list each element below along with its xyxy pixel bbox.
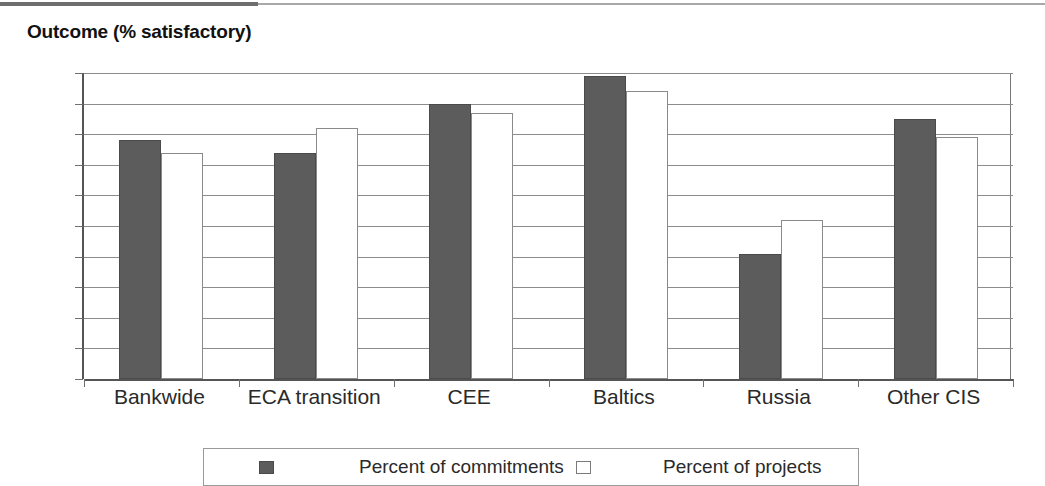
y-tick-mark-70: [75, 165, 83, 166]
x-category-label-cee: CEE: [392, 385, 547, 408]
legend-label-projects: Percent of projects: [663, 456, 821, 478]
plot-frame: 1009080706050403020100: [82, 73, 1011, 379]
bar-commitments-baltics: [584, 76, 626, 379]
bar-commitments-bankwide: [119, 140, 161, 379]
filled-dark-square-icon: [259, 461, 274, 474]
gridline-50: [84, 226, 1013, 227]
legend-label-commitments: Percent of commitments: [359, 456, 564, 478]
chart-legend: Percent of commitmentsPercent of project…: [203, 448, 859, 486]
x-tick-mark-end: [1013, 379, 1014, 387]
gridline-20: [84, 318, 1013, 319]
bar-commitments-russia: [739, 254, 781, 379]
gridline-90: [84, 104, 1013, 105]
y-tick-mark-100: [75, 73, 83, 74]
y-tick-mark-0: [75, 379, 83, 380]
bar-projects-baltics: [626, 91, 668, 379]
chart-plot-area: 1009080706050403020100 BankwideECA trans…: [0, 0, 1045, 486]
y-tick-mark-40: [75, 257, 83, 258]
legend-entry-projects[interactable]: Percent of projects: [576, 449, 821, 485]
x-category-label-other-cis: Other CIS: [856, 385, 1011, 408]
y-tick-mark-30: [75, 287, 83, 288]
bar-commitments-cee: [429, 104, 471, 379]
y-tick-mark-90: [75, 104, 83, 105]
legend-entry-commitments[interactable]: Percent of commitments: [259, 449, 564, 485]
x-category-label-russia: Russia: [701, 385, 856, 408]
bar-projects-cee: [471, 113, 513, 379]
gridline-100: [84, 73, 1013, 74]
gridline-30: [84, 287, 1013, 288]
bar-projects-other-cis: [936, 137, 978, 379]
bar-commitments-other-cis: [894, 119, 936, 379]
x-category-label-eca-transition: ECA transition: [237, 385, 392, 408]
gridline-80: [84, 134, 1013, 135]
outlined-white-square-icon: [576, 461, 591, 474]
gridline-10: [84, 348, 1013, 349]
y-tick-mark-20: [75, 318, 83, 319]
gridline-40: [84, 257, 1013, 258]
y-tick-mark-50: [75, 226, 83, 227]
bar-commitments-eca-transition: [274, 153, 316, 379]
bar-projects-bankwide: [161, 153, 203, 379]
bar-projects-russia: [781, 220, 823, 379]
gridline-60: [84, 195, 1013, 196]
x-category-label-baltics: Baltics: [547, 385, 702, 408]
y-tick-mark-80: [75, 134, 83, 135]
y-tick-mark-60: [75, 195, 83, 196]
gridline-70: [84, 165, 1013, 166]
x-category-label-bankwide: Bankwide: [82, 385, 237, 408]
y-tick-mark-10: [75, 348, 83, 349]
bar-projects-eca-transition: [316, 128, 358, 379]
